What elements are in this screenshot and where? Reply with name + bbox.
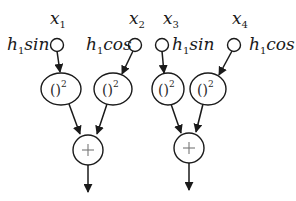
input-node-1 [51,39,64,52]
square-node-2: ()2 [94,73,132,105]
input-node-4 [228,39,241,52]
weight-label-2: h1cos [86,34,132,56]
weight-label-4: h1cos [249,34,295,56]
neural-network-diagram: x1 x2 x3 x4 h1sin h1cos h1sin h1cos ()2 … [0,0,296,201]
input-label-1: x1 [50,8,66,30]
square-node-3: ()2 [152,73,184,105]
edge-square2-sum1 [97,104,107,134]
edge-input2-square2 [122,51,133,74]
edge-square4-sum2 [196,104,203,132]
edge-input3-square3 [162,51,164,73]
input-label-3: x3 [163,8,179,30]
square-node-1: ()2 [41,73,81,105]
edge-square1-sum1 [69,104,80,134]
input-label-4: x4 [232,8,248,30]
weight-label-1: h1sin [7,34,49,56]
sum-node-1 [73,135,103,165]
input-label-2: x2 [129,8,145,30]
weight-label-3: h1sin [172,34,214,56]
input-node-3 [156,39,169,52]
edge-square3-sum2 [171,104,181,133]
square-node-4: ()2 [190,73,226,105]
edge-input4-square4 [219,51,232,75]
sum-node-2 [174,133,204,163]
edge-input1-square1 [57,51,60,72]
